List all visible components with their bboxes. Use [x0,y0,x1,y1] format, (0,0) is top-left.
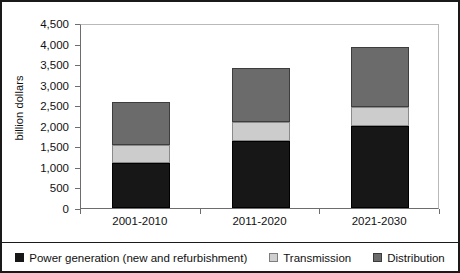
y-tick-label: 4,500 [9,18,69,30]
y-tick-label: 4,000 [9,39,69,51]
y-tick-label: 1,000 [9,162,69,174]
legend-label-distribution: Distribution [387,252,445,264]
plot-area [80,24,439,209]
bar-segment-distribution [232,68,290,121]
black-square-icon [15,253,24,262]
legend-item-transmission: Transmission [269,252,351,264]
bar-segment-transmission [232,122,290,142]
stacked-bar-chart-figure: billion dollars 05001,0001,5002,0002,500… [0,0,460,273]
y-tick-label: 2,000 [9,121,69,133]
x-axis-category-label: 2011-2020 [200,215,320,227]
chart-legend: Power generation (new and refurbishment)… [2,242,458,272]
bar-segment-distribution [351,47,409,107]
y-tick-label: 3,000 [9,80,69,92]
stacked-bar [351,47,409,208]
light-gray-square-icon [269,253,278,262]
y-tick-label: 2,500 [9,100,69,112]
x-tick-mark [200,209,201,214]
bar-segment-power-generation [232,141,290,208]
stacked-bar [112,102,170,208]
bar-segment-power-generation [112,163,170,208]
y-tick-label: 3,500 [9,59,69,71]
y-tick-label: 1,500 [9,141,69,153]
legend-label-transmission: Transmission [283,252,351,264]
legend-label-power-generation: Power generation (new and refurbishment) [29,252,247,264]
legend-item-power-generation: Power generation (new and refurbishment) [15,252,247,264]
x-tick-mark [80,209,81,214]
legend-item-distribution: Distribution [373,252,445,264]
x-tick-mark [319,209,320,214]
stacked-bar [232,68,290,208]
x-axis-category-label: 2021-2030 [319,215,439,227]
bar-segment-transmission [112,145,170,163]
bar-segment-power-generation [351,126,409,208]
y-tick-label: 500 [9,182,69,194]
x-tick-mark [439,209,440,214]
bar-segment-distribution [112,102,170,145]
x-axis-category-label: 2001-2010 [80,215,200,227]
dark-gray-square-icon [373,253,382,262]
bar-segment-transmission [351,107,409,126]
y-tick-label: 0 [9,203,69,215]
